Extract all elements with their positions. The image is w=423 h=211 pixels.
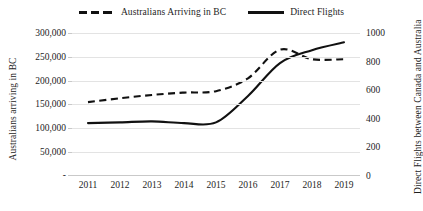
x-tick-2013: 2013 xyxy=(143,180,162,190)
tick-left-100000 xyxy=(68,128,72,129)
y-left-tick-150000: 150,000 xyxy=(35,100,66,110)
plot-area xyxy=(72,33,360,176)
tick-left-50000 xyxy=(68,152,72,153)
y-left-tick-zero: - xyxy=(63,171,66,181)
x-tick-2012: 2012 xyxy=(111,180,130,190)
gridline-200000 xyxy=(72,81,360,82)
y-right-tick-0: 0 xyxy=(366,172,371,182)
tick-left-300000 xyxy=(68,33,72,34)
y-left-tick-100000: 100,000 xyxy=(35,124,66,134)
tick-left-200000 xyxy=(68,81,72,82)
x-tick-2017: 2017 xyxy=(271,180,290,190)
y-left-tick-200000: 200,000 xyxy=(35,77,66,87)
gridline-150000 xyxy=(72,104,360,105)
x-tick-2018: 2018 xyxy=(303,180,322,190)
tick-left-0 xyxy=(68,175,72,176)
y-axis-right-ticks: 1000 800 600 400 200 0 xyxy=(366,33,406,176)
legend-item-australians-arriving-in-bc[interactable]: Australians Arriving in BC xyxy=(79,7,226,17)
gridline-100000 xyxy=(72,128,360,129)
solid-line-icon xyxy=(248,7,284,17)
x-tick-2016: 2016 xyxy=(239,180,258,190)
x-axis-ticks: 2011 2012 2013 2014 2015 2016 2017 2018 … xyxy=(72,180,360,196)
x-tick-2015: 2015 xyxy=(207,180,226,190)
tick-left-150000 xyxy=(68,104,72,105)
y-left-tick-50000: 50,000 xyxy=(40,148,66,158)
y-right-tick-600: 600 xyxy=(366,86,380,96)
gridline-300000 xyxy=(72,33,360,34)
y-right-tick-200: 200 xyxy=(366,143,380,153)
dashed-line-icon xyxy=(79,7,115,17)
legend-label-series-2: Direct Flights xyxy=(290,7,344,17)
x-tick-2014: 2014 xyxy=(175,180,194,190)
y-axis-right-title: Direct Flights between Canada and Austra… xyxy=(413,24,423,194)
legend-item-direct-flights[interactable]: Direct Flights xyxy=(248,7,344,17)
y-right-tick-800: 800 xyxy=(366,58,380,68)
legend-label-series-1: Australians Arriving in BC xyxy=(121,7,226,17)
y-left-tick-250000: 250,000 xyxy=(35,53,66,63)
chart-legend: Australians Arriving in BC Direct Flight… xyxy=(0,2,423,22)
x-tick-2019: 2019 xyxy=(335,180,354,190)
x-tick-2011: 2011 xyxy=(79,180,98,190)
y-right-tick-1000: 1000 xyxy=(366,29,385,39)
y-right-tick-400: 400 xyxy=(366,115,380,125)
x-axis-baseline xyxy=(72,175,360,176)
gridline-250000 xyxy=(72,57,360,58)
tick-left-250000 xyxy=(68,57,72,58)
gridline-50000 xyxy=(72,152,360,153)
chart-figure: Australians Arriving in BC Direct Flight… xyxy=(0,0,423,211)
line-direct-flights xyxy=(88,42,344,124)
y-axis-left-ticks: 300,000 250,000 200,000 150,000 100,000 … xyxy=(0,33,66,176)
y-left-tick-300000: 300,000 xyxy=(35,29,66,39)
